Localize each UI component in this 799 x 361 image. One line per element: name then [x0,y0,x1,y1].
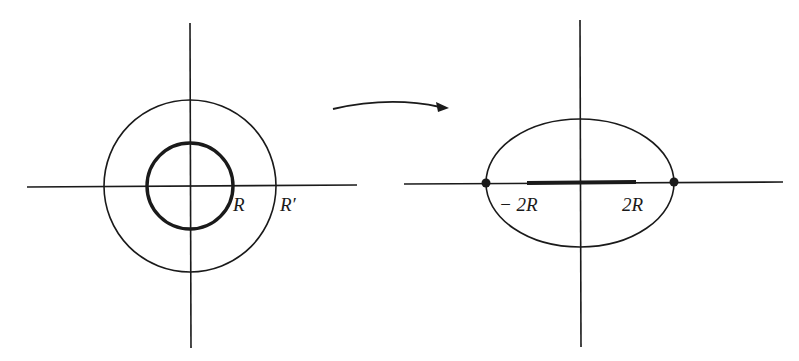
arrow-head-icon [436,102,449,112]
left-focus-dot [482,179,491,188]
diagram-canvas: R R′ − 2R 2R [0,0,799,361]
label-minus-2r: − 2R [499,195,538,214]
label-r-prime: R′ [280,195,296,214]
diagram-svg [0,0,799,361]
slit-segment [527,182,636,183]
right-focus-dot [670,178,679,187]
right-panel [404,20,783,347]
left-vertical-axis [190,23,191,348]
label-r: R [233,195,245,214]
left-panel [27,23,357,348]
arrow-shaft [333,102,440,109]
mapping-arrow [333,102,449,112]
label-2r: 2R [622,195,643,214]
left-horizontal-axis [27,185,357,187]
